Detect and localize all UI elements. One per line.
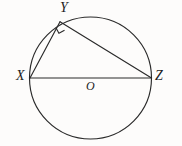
vertex-label-X: X	[16, 69, 25, 83]
segment-XY	[30, 22, 60, 78]
geometry-figure: Y X Z O	[0, 0, 182, 146]
segment-YZ	[60, 22, 152, 78]
center-label-O: O	[86, 80, 95, 92]
vertex-label-Y: Y	[60, 1, 68, 15]
right-angle-marker-at-Y	[56, 28, 65, 34]
vertex-label-Z: Z	[155, 69, 163, 83]
